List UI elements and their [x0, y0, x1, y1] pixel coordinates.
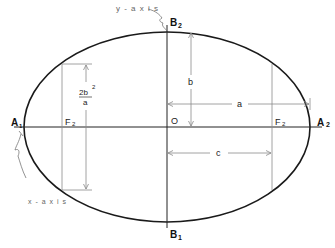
vertex-right-label: A — [317, 117, 324, 128]
covertex-top-label: B — [170, 17, 177, 28]
semi-minor-label: b — [188, 77, 193, 87]
x-axis-callout-leader — [15, 134, 26, 178]
ellipse-diagram: y - a x i s x - a x i s B 2 B 1 A 1 A 2 … — [0, 0, 335, 248]
semi-major-label: a — [237, 99, 242, 109]
vertex-left-sub: 1 — [19, 123, 23, 129]
focus-left-sub: 2 — [72, 121, 76, 127]
focus-left-label: F — [65, 117, 71, 127]
y-axis-callout-label: y - a x i s — [116, 4, 159, 13]
x-axis-callout-label: x - a x i s — [28, 198, 67, 205]
center-label: O — [171, 116, 178, 126]
latus-exponent: 2 — [92, 84, 96, 90]
focus-right-label: F — [275, 117, 281, 127]
latus-denominator: a — [83, 98, 88, 107]
covertex-top-sub: 2 — [178, 22, 182, 29]
vertex-right-sub: 2 — [326, 121, 330, 128]
vertex-left-label: A — [11, 117, 18, 128]
ellipse-diagram-svg: y - a x i s x - a x i s B 2 B 1 A 1 A 2 … — [0, 0, 335, 248]
covertex-bottom-sub: 1 — [178, 234, 182, 241]
latus-numerator: 2b — [79, 88, 88, 97]
covertex-bottom-label: B — [170, 229, 177, 240]
focus-right-sub: 2 — [282, 121, 286, 127]
focal-distance-label: c — [216, 148, 221, 158]
